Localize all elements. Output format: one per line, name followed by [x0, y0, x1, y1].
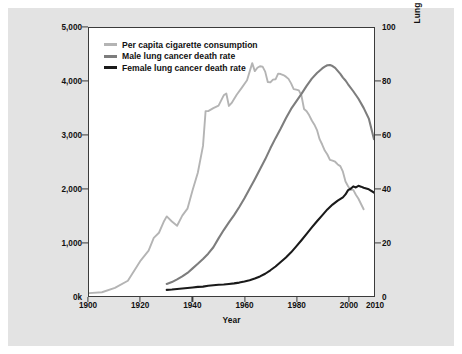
y-axis-left-tick-label: 3,000 [62, 131, 83, 140]
x-axis-tick-label: 2010 [366, 301, 384, 310]
chart-legend: Per capita cigarette consumptionMale lun… [100, 36, 262, 77]
x-axis-tick-label: 1900 [79, 301, 97, 310]
series-line [89, 63, 364, 293]
x-axis-tick-label: 2000 [340, 301, 358, 310]
chart-figure: Per capita cigarette consumption (age 18… [8, 8, 454, 346]
x-axis-tick-mark [140, 297, 141, 302]
y-axis-right-title: Lung cancer deaths per 100,000 people (a… [412, 0, 434, 34]
x-axis-tick-mark [348, 297, 349, 302]
y-axis-left-tick-mark [82, 26, 88, 27]
y-axis-right-tick-mark [375, 242, 381, 243]
legend-item-label: Male lung cancer death rate [122, 51, 235, 61]
y-axis-right-tick-label: 20 [382, 239, 391, 248]
y-axis-right-tick-mark [375, 80, 381, 81]
legend-color-swatch [104, 55, 117, 58]
y-axis-left-tick-mark [82, 188, 88, 189]
x-axis-tick-label: 1980 [288, 301, 306, 310]
x-axis-tick-mark [87, 297, 88, 302]
x-axis-title: Year [88, 315, 375, 325]
legend-item[interactable]: Male lung cancer death rate [104, 51, 258, 63]
y-axis-right-tick-label: 40 [382, 185, 391, 194]
y-axis-left-tick-mark [82, 134, 88, 135]
x-axis-tick-label: 1960 [235, 301, 253, 310]
legend-item[interactable]: Per capita cigarette consumption [104, 39, 258, 51]
y-axis-right-tick-mark [375, 188, 381, 189]
y-axis-right-tick-mark [375, 134, 381, 135]
x-axis-tick-label: 1940 [183, 301, 201, 310]
x-axis-tick-mark [296, 297, 297, 302]
x-axis-tick-mark [192, 297, 193, 302]
legend-item-label: Female lung cancer death rate [122, 63, 246, 73]
y-axis-left-tick-label: 4,000 [62, 77, 83, 86]
y-axis-left-tick-mark [82, 80, 88, 81]
y-axis-left-tick-label: 2,000 [62, 185, 83, 194]
y-axis-right-tick-label: 60 [382, 131, 391, 140]
y-axis-right-tick-label: 100 [382, 23, 396, 32]
legend-color-swatch [104, 66, 117, 69]
y-axis-left-tick-label: 1,000 [62, 239, 83, 248]
x-axis-tick-mark [244, 297, 245, 302]
series-line [167, 186, 374, 290]
y-axis-right-tick-label: 80 [382, 77, 391, 86]
legend-item[interactable]: Female lung cancer death rate [104, 62, 258, 74]
y-axis-left-tick-label: 5,000 [62, 23, 83, 32]
y-axis-left-tick-mark [82, 242, 88, 243]
legend-color-swatch [104, 43, 117, 46]
x-axis-tick-label: 1920 [131, 301, 149, 310]
legend-item-label: Per capita cigarette consumption [122, 40, 258, 50]
